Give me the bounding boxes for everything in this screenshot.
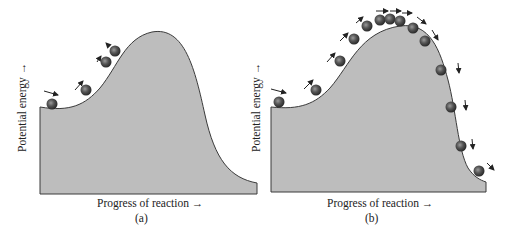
energy-barrier-a	[40, 31, 257, 194]
caption-a: (a)	[135, 212, 148, 224]
x-axis-label-a: Progress of reaction →	[97, 197, 203, 209]
y-axis-label-b: Potential energy →	[250, 63, 262, 152]
caption-b: (b)	[365, 212, 378, 224]
panel-b	[271, 11, 494, 192]
x-axis-label-b: Progress of reaction →	[327, 197, 433, 209]
motion-arrows-a	[44, 43, 109, 95]
y-axis-label-a: Potential energy →	[16, 63, 28, 152]
panel-a	[40, 31, 257, 194]
